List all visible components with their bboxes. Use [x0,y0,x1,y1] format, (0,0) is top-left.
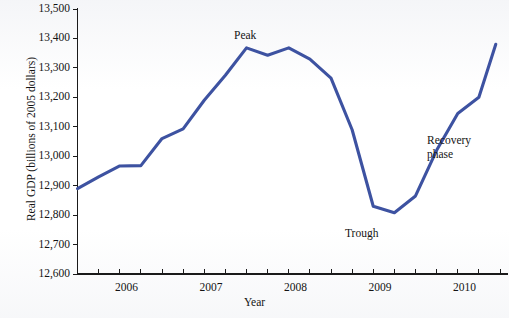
x-axis-tick-marks [78,269,501,274]
x-axis-tick-label: 2010 [435,282,495,294]
y-axis-tick-label: 12,800 [4,209,70,221]
recovery-annotation-line2: phase [427,148,453,160]
y-axis-tick-label: 13,000 [4,150,70,162]
x-axis-tick-label: 2009 [350,282,410,294]
y-axis-tick-label: 13,100 [4,121,70,133]
recovery-phase-annotation: Recoveryphase [427,133,471,161]
trough-annotation: Trough [345,226,378,240]
y-axis-tick-label: 13,500 [4,3,70,15]
y-axis-tick-label: 13,400 [4,32,70,44]
recovery-annotation-line1: Recovery [427,134,471,146]
gdp-business-cycle-chart: 13,50013,40013,30013,20013,10013,00012,9… [0,0,509,318]
peak-annotation: Peak [234,28,256,42]
x-axis-title: Year [0,296,509,308]
y-axis-tick-label: 12,600 [4,268,70,280]
x-axis-tick-label: 2007 [181,282,241,294]
y-axis-title: Real GDP (billions of 2005 dollars) [25,24,37,254]
y-axis-tick-label: 12,700 [4,239,70,251]
x-axis-tick-label: 2008 [266,282,326,294]
y-axis-tick-label: 13,300 [4,62,70,74]
x-axis-tick-label: 2006 [97,282,157,294]
y-axis-tick-label: 12,900 [4,180,70,192]
real-gdp-line [78,44,496,212]
y-axis-tick-marks [73,9,78,274]
y-axis-tick-label: 13,200 [4,91,70,103]
